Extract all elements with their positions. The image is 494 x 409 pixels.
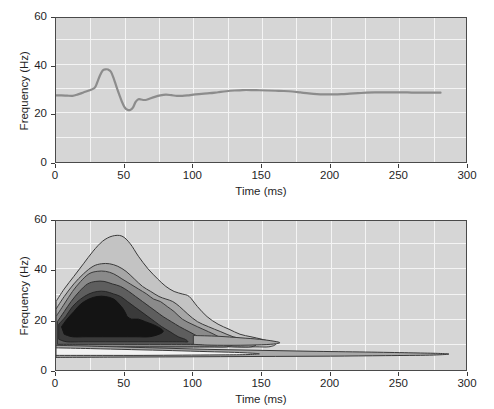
bottom-yticklabel-0: 0 [33,365,47,377]
top-xticklabel-150: 150 [251,170,270,182]
top-xtick-50 [124,164,125,168]
bottom-ytick-20 [51,321,55,322]
top-xtick-200 [330,164,331,168]
top-ytick-20 [51,114,55,115]
top-xticklabel-50: 50 [117,170,130,182]
top-xticklabel-200: 200 [320,170,339,182]
top-yticklabel-0: 0 [33,157,47,169]
top-panel: 0 20 40 60 0 50 100 150 200 250 300 Time… [0,0,494,205]
bottom-yticklabel-60: 60 [26,214,47,226]
top-yaxis-title: Frequency (Hz) [19,41,31,141]
top-xtick-250 [398,164,399,168]
bottom-plot-area [55,220,467,371]
bottom-yaxis-title: Frequency (Hz) [19,246,31,346]
bottom-xtick-250 [398,372,399,376]
bottom-ytick-40 [51,270,55,271]
figure-root: 0 20 40 60 0 50 100 150 200 250 300 Time… [0,0,494,409]
bottom-ytick-60 [51,220,55,221]
top-line-series [56,18,467,163]
top-ytick-40 [51,66,55,67]
top-xtick-100 [192,164,193,168]
bottom-xticklabel-300: 300 [457,378,476,390]
bottom-xtick-100 [192,372,193,376]
top-xtick-150 [261,164,262,168]
bottom-xticklabel-50: 50 [117,378,130,390]
bottom-xticklabel-0: 0 [52,378,58,390]
top-xticklabel-250: 250 [389,170,408,182]
top-plot-area [55,17,467,163]
bottom-xticklabel-200: 200 [320,378,339,390]
bottom-contour-series [56,221,467,371]
bottom-xticklabel-150: 150 [251,378,270,390]
top-xtick-0 [55,164,56,168]
bottom-xtick-50 [124,372,125,376]
bottom-xtick-0 [55,372,56,376]
top-xaxis-title: Time (ms) [235,186,286,198]
bottom-panel: 0 20 40 60 0 50 100 150 200 250 300 Time… [0,205,494,409]
bottom-xtick-150 [261,372,262,376]
top-ytick-60 [51,17,55,18]
top-xtick-300 [467,164,468,168]
top-yticklabel-60: 60 [26,11,47,23]
top-xticklabel-300: 300 [457,170,476,182]
top-xticklabel-100: 100 [183,170,202,182]
bottom-xticklabel-250: 250 [389,378,408,390]
bottom-xtick-200 [330,372,331,376]
bottom-xaxis-title: Time (ms) [235,394,286,406]
bottom-xtick-300 [467,372,468,376]
bottom-xticklabel-100: 100 [183,378,202,390]
top-xticklabel-0: 0 [52,170,58,182]
